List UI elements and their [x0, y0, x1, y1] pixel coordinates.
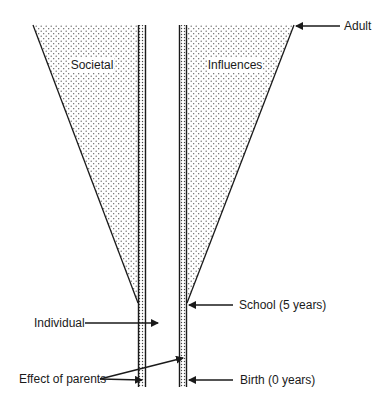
individual-label: Individual [34, 316, 85, 330]
left-tube-wall [139, 25, 146, 387]
birth-label: Birth (0 years) [240, 373, 315, 387]
school-label: School (5 years) [239, 298, 326, 312]
adult-label: Adult [344, 19, 372, 33]
societal-label: Societal [71, 58, 114, 72]
right-tube-wall [180, 25, 187, 387]
effect-of-parents-label: Effect of parents [19, 372, 106, 386]
societal-influences-diagram: Societal Influences Adult School (5 year… [0, 0, 386, 410]
effect-of-parents-arrow-left [100, 379, 142, 380]
influences-label: Influences [208, 58, 263, 72]
